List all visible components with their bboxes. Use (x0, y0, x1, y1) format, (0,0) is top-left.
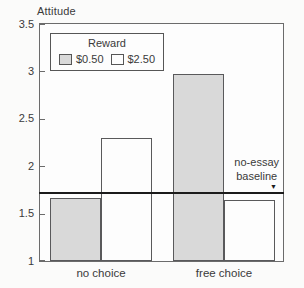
y-tick-mark (40, 71, 45, 72)
legend-item: $0.50 (59, 53, 104, 65)
y-tick-label: 2.5 (0, 112, 34, 125)
legend: Reward $0.50 $2.50 (50, 33, 164, 71)
legend-label: $0.50 (76, 53, 104, 65)
baseline-annotation: no-essay baseline ▼ (234, 155, 279, 191)
legend-title: Reward (51, 37, 163, 50)
figure-container: Attitude Reward $0.50 $2.50 no-essay bas… (0, 0, 304, 288)
bar (173, 74, 224, 261)
x-category-label: no choice (56, 267, 146, 279)
y-tick-label: 1.5 (0, 207, 34, 220)
bar (224, 200, 275, 261)
y-tick-label: 3.5 (0, 18, 34, 31)
legend-swatch-white-icon (111, 54, 124, 65)
baseline-marker-icon: ▼ (234, 183, 279, 191)
legend-label: $2.50 (128, 53, 156, 65)
legend-items: $0.50 $2.50 (51, 53, 163, 65)
y-tick-label: 3 (0, 65, 34, 78)
y-tick-mark (40, 166, 45, 167)
bar (50, 198, 101, 261)
legend-swatch-gray-icon (59, 54, 72, 65)
y-tick-mark (40, 119, 45, 120)
y-axis-title: Attitude (37, 5, 76, 17)
y-tick-mark (40, 260, 45, 261)
y-tick-mark (40, 214, 45, 215)
plot-area: Reward $0.50 $2.50 no-essay baseline ▼ (39, 23, 284, 262)
baseline-annotation-line2: baseline (234, 169, 279, 183)
x-category-label: free choice (179, 267, 269, 279)
y-tick-label: 2 (0, 160, 34, 173)
bar (101, 138, 152, 261)
baseline-annotation-line1: no-essay (234, 155, 279, 169)
y-tick-mark (40, 24, 45, 25)
y-tick-label: 1 (0, 255, 34, 268)
baseline-line (39, 192, 284, 194)
legend-item: $2.50 (111, 53, 156, 65)
